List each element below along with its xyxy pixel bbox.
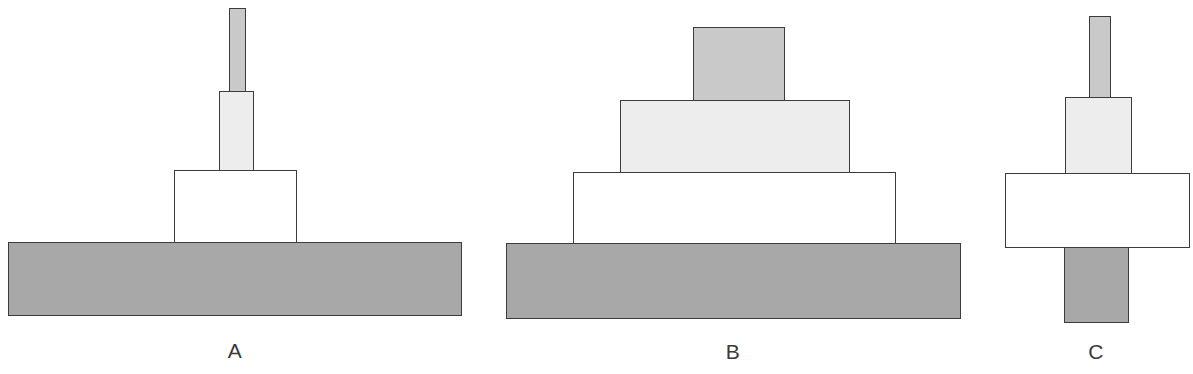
stack-c-middle-block xyxy=(1005,173,1190,248)
stack-b-label: B xyxy=(693,339,773,365)
stack-b-upper-block xyxy=(620,100,850,173)
stack-b-top-block xyxy=(693,27,785,101)
stack-c-upper-block xyxy=(1065,97,1132,174)
stack-a-upper-block xyxy=(219,91,254,171)
stack-b-middle-block xyxy=(573,172,896,244)
stack-b-base-slab xyxy=(506,243,961,319)
stack-a-top-bar xyxy=(229,8,246,92)
stack-c-bottom-bar xyxy=(1064,247,1129,323)
stack-a-base-slab xyxy=(8,242,462,316)
stack-a-middle-block xyxy=(174,170,297,243)
figure-canvas: ABC xyxy=(0,0,1193,374)
stack-c-top-bar xyxy=(1089,16,1111,98)
stack-a-label: A xyxy=(195,338,275,364)
stack-c-label: C xyxy=(1056,339,1136,365)
